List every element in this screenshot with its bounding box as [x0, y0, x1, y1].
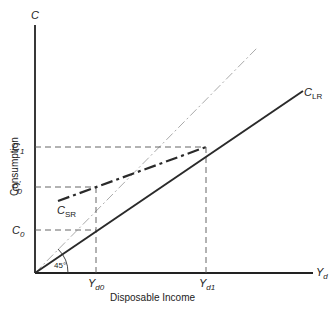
consumption-diagram: 45° C Yd Consumption Disposable Income C…	[0, 0, 334, 312]
clr-label: CLR	[304, 86, 322, 101]
csr-line	[58, 147, 206, 201]
x-axis-label: Yd	[316, 266, 328, 281]
tick-yd1: Yd1	[199, 277, 215, 292]
tick-c0: C0	[12, 224, 25, 239]
x-axis-title: Disposable Income	[110, 292, 195, 303]
clr-line	[35, 91, 303, 273]
y-axis-label: C	[31, 9, 39, 21]
45-degree-line	[35, 48, 257, 273]
csr-label: CSR	[57, 204, 76, 219]
angle-label: 45°	[54, 261, 66, 270]
tick-yd0: Yd0	[88, 277, 105, 292]
